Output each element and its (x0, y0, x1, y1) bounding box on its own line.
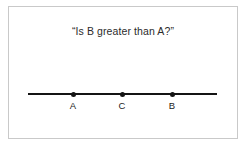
point-marker-b (170, 92, 175, 97)
point-label-c: C (107, 100, 137, 111)
point-marker-a (71, 92, 76, 97)
number-line-diagram: A C B (0, 0, 247, 146)
point-label-a: A (58, 100, 88, 111)
point-marker-c (120, 92, 125, 97)
figure-root: “Is B greater than A?” A C B (0, 0, 247, 146)
point-label-b: B (157, 100, 187, 111)
